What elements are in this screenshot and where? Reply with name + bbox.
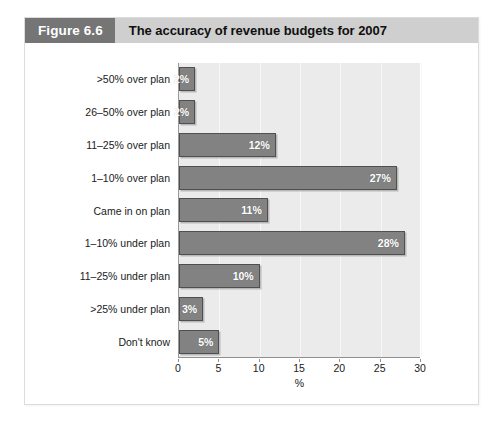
bar-row: 10% [179, 260, 420, 293]
x-axis: 051015202530 [178, 359, 421, 375]
bar-value-label: 11% [241, 204, 266, 216]
figure-panel: Figure 6.6 The accuracy of revenue budge… [24, 17, 479, 405]
bar-value-label: 2% [174, 73, 194, 85]
x-tick-label: 25 [374, 362, 386, 374]
bar-row: 2% [179, 63, 420, 96]
bar-value-label: 27% [370, 172, 396, 184]
bar[interactable]: 28% [179, 231, 405, 255]
bar-row: 5% [179, 325, 420, 358]
bar-row: 28% [179, 227, 420, 260]
category-label: 26–50% over plan [85, 107, 170, 118]
bar[interactable]: 12% [179, 133, 276, 157]
bar[interactable]: 27% [179, 166, 397, 190]
bar-value-label: 28% [378, 237, 404, 249]
category-label: Don't know [118, 337, 170, 348]
bar[interactable]: 11% [179, 198, 268, 222]
x-tick-label: 20 [333, 362, 345, 374]
bar[interactable]: 3% [179, 297, 203, 321]
bar-row: 12% [179, 129, 420, 162]
figure-title: The accuracy of revenue budgets for 2007 [115, 18, 387, 43]
bar-row: 27% [179, 161, 420, 194]
category-label: >25% under plan [90, 304, 170, 315]
category-label: 1–10% over plan [91, 173, 170, 184]
x-tick-label: 15 [293, 362, 305, 374]
category-label: 11–25% over plan [86, 140, 170, 151]
bar-value-label: 2% [174, 106, 194, 118]
plot-area: 2%2%12%27%11%28%10%3%5% [178, 63, 420, 358]
bar[interactable]: 2% [179, 100, 195, 124]
bar-row: 3% [179, 292, 420, 325]
figure-header: Figure 6.6 The accuracy of revenue budge… [25, 18, 478, 43]
figure-number-badge: Figure 6.6 [25, 18, 115, 43]
x-tick-label: 10 [253, 362, 265, 374]
bar-row: 2% [179, 96, 420, 129]
category-label: >50% over plan [97, 74, 170, 85]
category-label: 1–10% under plan [85, 238, 170, 249]
bar[interactable]: 10% [179, 264, 260, 288]
chart-area: >50% over plan26–50% over plan11–25% ove… [25, 43, 478, 404]
category-label: 11–25% under plan [80, 271, 170, 282]
x-tick-label: 30 [414, 362, 426, 374]
x-axis-title: % [178, 377, 421, 389]
category-label: Came in on plan [94, 206, 170, 217]
y-axis-category-labels: >50% over plan26–50% over plan11–25% ove… [25, 63, 170, 358]
x-tick-label: 0 [175, 362, 181, 374]
bar-row: 11% [179, 194, 420, 227]
bar-value-label: 12% [249, 139, 275, 151]
bar-value-label: 3% [182, 303, 202, 315]
bar[interactable]: 2% [179, 67, 195, 91]
x-tick-label: 5 [215, 362, 221, 374]
bar-value-label: 5% [198, 336, 218, 348]
bar-value-label: 10% [233, 270, 259, 282]
bar[interactable]: 5% [179, 330, 219, 354]
gridline-30 [421, 63, 422, 357]
